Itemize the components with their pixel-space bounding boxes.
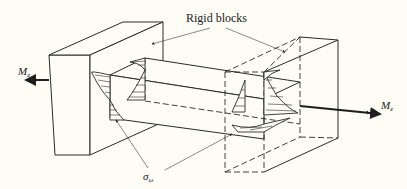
right-block-top-back <box>300 37 338 40</box>
right-block-hidden-diag <box>225 137 300 172</box>
right-block-bottom-edge <box>264 138 338 172</box>
leader-sigma-right <box>165 134 232 170</box>
right-block-hidden-bottom <box>300 137 338 138</box>
rigid-blocks-leaders <box>152 28 285 52</box>
warping-stress-label: σω <box>143 170 153 184</box>
moment-left-label: Mz <box>17 65 30 79</box>
torque-arrow-left <box>26 79 49 82</box>
left-block-front-face <box>49 55 90 155</box>
torque-arrow-right <box>300 106 380 114</box>
rigid-blocks-label: Rigid blocks <box>186 11 247 25</box>
right-block-front-top-edge <box>225 37 300 72</box>
right-block-top-right <box>264 40 338 72</box>
torsion-diagram: Rigid blocks Mz Mz σω <box>0 0 407 189</box>
moment-right-label: Mz <box>380 99 393 113</box>
right-block-dashed <box>264 37 300 72</box>
leader-right-block <box>226 28 285 52</box>
